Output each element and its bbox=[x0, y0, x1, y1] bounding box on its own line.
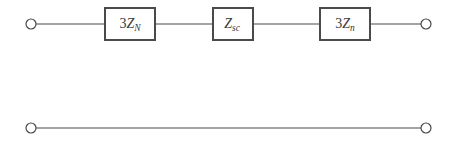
impedance-box-1-coefficient: 3 bbox=[119, 16, 126, 31]
impedance-box-2-symbol: Z bbox=[224, 16, 232, 31]
circuit-canvas: 3ZN Zsc 3Zn bbox=[0, 0, 456, 150]
impedance-box-1: 3ZN bbox=[105, 8, 155, 40]
impedance-box-1-symbol: Z bbox=[126, 16, 134, 31]
impedance-box-3-subscript: n bbox=[350, 23, 355, 33]
top-branch: 3ZN Zsc 3Zn bbox=[26, 8, 431, 40]
bottom-branch bbox=[26, 123, 431, 133]
impedance-box-3: 3Zn bbox=[320, 8, 370, 40]
top-right-terminal bbox=[421, 19, 431, 29]
top-left-terminal bbox=[26, 19, 36, 29]
bottom-right-terminal bbox=[421, 123, 431, 133]
impedance-box-3-coefficient: 3 bbox=[335, 16, 342, 31]
circuit-diagram: 3ZN Zsc 3Zn bbox=[0, 0, 456, 150]
impedance-box-3-symbol: Z bbox=[342, 16, 350, 31]
impedance-box-2: Zsc bbox=[213, 8, 253, 40]
bottom-left-terminal bbox=[26, 123, 36, 133]
impedance-box-2-subscript: sc bbox=[232, 23, 241, 33]
impedance-box-1-subscript: N bbox=[133, 23, 141, 33]
